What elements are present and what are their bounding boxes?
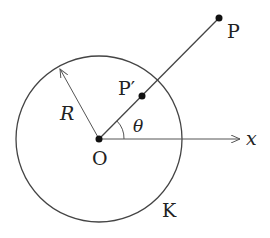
point-p-prime [139,93,146,100]
diagram-svg: O P P′ K R θ x [0,0,270,238]
point-p [216,15,223,22]
point-o [96,136,103,143]
label-x: x [246,127,257,149]
label-k: K [162,199,177,221]
angle-arc [117,121,124,139]
label-r: R [59,102,74,124]
ray-op [99,18,219,139]
inversion-diagram: O P P′ K R θ x [0,0,270,238]
label-o: O [92,147,108,169]
label-p: P [227,20,240,42]
label-theta: θ [133,116,143,136]
label-p-prime: P′ [118,77,135,99]
